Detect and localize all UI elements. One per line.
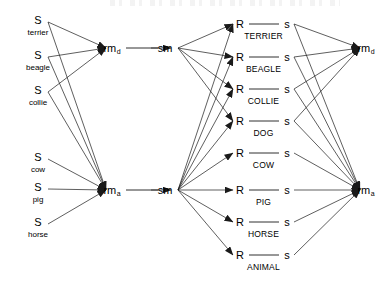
concept-response-c-terrier: R: [236, 19, 244, 30]
concept-stimulus-c-pig: s: [284, 185, 290, 196]
stimulus-label-s-pig: pig: [33, 196, 44, 204]
concept-stimulus-c-collie: s: [284, 84, 290, 95]
concept-stimulus-c-beagle: s: [284, 52, 290, 63]
concept-stimulus-c-animal: s: [284, 250, 290, 261]
stimulus-label-s-collie: collie: [29, 99, 47, 107]
stimulus-symbol-s-terrier: S: [34, 15, 41, 26]
concept-stimulus-c-dog: s: [284, 116, 290, 127]
labels-layer: SterrierSbeagleScollieScowSpigShorsermdr…: [0, 0, 392, 287]
stimulus-label-s-horse: horse: [28, 231, 48, 239]
concept-label-c-terrier: TERRIER: [244, 32, 283, 41]
concept-label-c-pig: PIG: [256, 198, 271, 207]
concept-response-c-animal: R: [236, 250, 244, 261]
concept-response-c-pig: R: [236, 185, 244, 196]
concept-label-c-collie: COLLIE: [248, 97, 279, 106]
relay-module-rm-a-right: rma: [357, 185, 374, 196]
concept-label-c-animal: ANIMAL: [247, 263, 280, 272]
semantic-memory-sm-bottom: sm: [158, 185, 173, 196]
stimulus-symbol-s-collie: S: [34, 85, 41, 96]
concept-response-c-dog: R: [236, 116, 244, 127]
relay-module-rm-a-left: rma: [103, 185, 120, 196]
semantic-memory-sm-top: sm: [158, 43, 173, 54]
concept-label-c-cow: COW: [253, 161, 274, 170]
relay-module-rm-d-left: rmd: [103, 43, 120, 54]
concept-stimulus-c-cow: s: [284, 148, 290, 159]
semantic-network-diagram: SterrierSbeagleScollieScowSpigShorsermdr…: [0, 0, 392, 287]
stimulus-label-s-beagle: beagle: [26, 64, 50, 72]
stimulus-label-s-terrier: terrier: [28, 29, 49, 37]
concept-response-c-collie: R: [236, 84, 244, 95]
stimulus-symbol-s-pig: S: [34, 182, 41, 193]
concept-stimulus-c-terrier: s: [284, 19, 290, 30]
concept-label-c-beagle: BEAGLE: [246, 65, 281, 74]
concept-response-c-horse: R: [236, 217, 244, 228]
stimulus-symbol-s-horse: S: [34, 217, 41, 228]
stimulus-symbol-s-cow: S: [34, 152, 41, 163]
stimulus-symbol-s-beagle: S: [34, 50, 41, 61]
stimulus-label-s-cow: cow: [31, 166, 45, 174]
concept-response-c-cow: R: [236, 148, 244, 159]
relay-module-rm-d-right: rmd: [357, 43, 374, 54]
concept-label-c-dog: DOG: [254, 129, 274, 138]
concept-response-c-beagle: R: [236, 52, 244, 63]
concept-label-c-horse: HORSE: [248, 230, 279, 239]
concept-stimulus-c-horse: s: [284, 217, 290, 228]
